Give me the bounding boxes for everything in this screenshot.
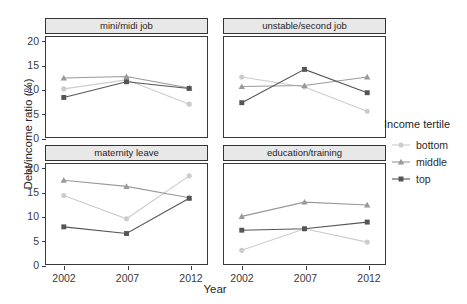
x-axis-title: Year: [45, 283, 385, 295]
panel-strip: mini/midi job: [45, 18, 208, 34]
panel-strip: maternity leave: [45, 145, 208, 161]
plot-area: 20022007201205101520: [45, 163, 208, 265]
panel-maternity-leave: maternity leave20022007201205101520: [45, 145, 208, 265]
panel-strip-label: unstable/second job: [262, 21, 347, 31]
legend-items: bottommiddletop: [392, 136, 467, 187]
y-tick-mark: [42, 168, 46, 169]
y-tick-label: 0: [33, 259, 39, 271]
panel-strip: unstable/second job: [223, 18, 386, 34]
circle-marker-icon: [392, 138, 410, 152]
y-tick-label: 5: [33, 235, 39, 247]
y-tick-label: 15: [27, 59, 39, 71]
y-tick-label: 20: [27, 35, 39, 47]
y-tick-mark: [42, 241, 46, 242]
panel-strip-label: education/training: [267, 148, 342, 158]
y-tick-mark: [42, 114, 46, 115]
x-tick-mark: [64, 266, 65, 270]
panel-unstable-second-job: unstable/second job: [223, 18, 386, 138]
x-tick-mark: [242, 266, 243, 270]
x-tick-mark: [306, 266, 307, 270]
legend-item-top[interactable]: top: [392, 170, 467, 187]
y-tick-mark: [42, 66, 46, 67]
x-tick-mark: [191, 266, 192, 270]
plot-area: [223, 36, 386, 138]
triangle-marker-icon: [392, 155, 410, 169]
y-tick-mark: [42, 217, 46, 218]
panel-grid: mini/midi job05101520unstable/second job…: [45, 18, 386, 268]
x-tick-mark: [128, 266, 129, 270]
x-tick-mark: [369, 266, 370, 270]
y-tick-label: 5: [33, 108, 39, 120]
y-tick-mark: [42, 139, 46, 140]
panel-strip-label: maternity leave: [94, 148, 158, 158]
y-tick-label: 10: [27, 210, 39, 222]
legend-item-bottom[interactable]: bottom: [392, 136, 467, 153]
panel-strip-label: mini/midi job: [100, 21, 153, 31]
panel-mini-midi-job: mini/midi job05101520: [45, 18, 208, 138]
square-marker-icon: [392, 172, 410, 186]
legend-title: Income tertile: [384, 118, 467, 130]
faceted-line-chart: Debt/income ratio (%) mini/midi job05101…: [0, 0, 467, 304]
plot-area: 200220072012: [223, 163, 386, 265]
y-tick-mark: [42, 266, 46, 267]
legend-item-middle[interactable]: middle: [392, 153, 467, 170]
y-tick-label: 0: [33, 132, 39, 144]
legend-item-label: bottom: [416, 139, 448, 151]
y-tick-label: 15: [27, 186, 39, 198]
plot-area: 05101520: [45, 36, 208, 138]
legend-item-label: top: [416, 173, 431, 185]
panel-strip: education/training: [223, 145, 386, 161]
legend: Income tertile bottommiddletop: [392, 118, 467, 187]
y-tick-mark: [42, 90, 46, 91]
y-tick-label: 20: [27, 162, 39, 174]
panel-education-training: education/training200220072012: [223, 145, 386, 265]
y-tick-mark: [42, 193, 46, 194]
legend-item-label: middle: [416, 156, 447, 168]
y-tick-mark: [42, 41, 46, 42]
y-tick-label: 10: [27, 83, 39, 95]
